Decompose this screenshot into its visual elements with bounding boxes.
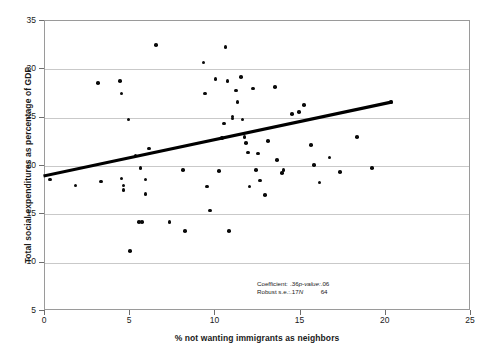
coefficient-key: Coefficient: [257, 280, 290, 288]
x-axis-tick-label: 10 [199, 316, 229, 325]
y-axis-tick-label: 25 [27, 112, 36, 121]
y-axis-tick-label: 30 [27, 64, 36, 73]
x-axis-tick-label: 0 [29, 316, 59, 325]
x-axis-tick-label: 15 [285, 316, 315, 325]
plot-area: Coefficient: .36 p-value: .06 Robust s.e… [44, 20, 470, 310]
annotation-row-se: Robust s.e.: .17 N 64 [257, 288, 329, 296]
y-axis-tick-label: 5 [31, 306, 36, 315]
scatter-plot-figure: Total social expenditures as percentage … [0, 0, 497, 363]
x-axis-tick-label: 5 [114, 316, 144, 325]
robust-se-value: .17 [290, 288, 299, 296]
pvalue-value: .06 [321, 280, 330, 288]
y-axis-tick-label: 35 [27, 16, 36, 25]
trend-line [45, 21, 471, 311]
n-value: 64 [321, 288, 330, 296]
n-key: N [299, 288, 321, 296]
robust-se-key: Robust s.e.: [257, 288, 290, 296]
regression-stats-annotation: Coefficient: .36 p-value: .06 Robust s.e… [257, 280, 329, 297]
x-axis-label: % not wanting immigrants as neighbors [44, 333, 470, 343]
annotation-row-coefficient: Coefficient: .36 p-value: .06 [257, 280, 329, 288]
pvalue-key: p-value: [299, 280, 321, 288]
x-axis-tick-label: 20 [370, 316, 400, 325]
y-axis-tick-label: 10 [27, 257, 36, 266]
coefficient-value: .36 [290, 280, 299, 288]
y-axis-tick-label: 15 [27, 209, 36, 218]
x-axis-tick-label: 25 [455, 316, 485, 325]
y-axis-tick-label: 20 [27, 161, 36, 170]
